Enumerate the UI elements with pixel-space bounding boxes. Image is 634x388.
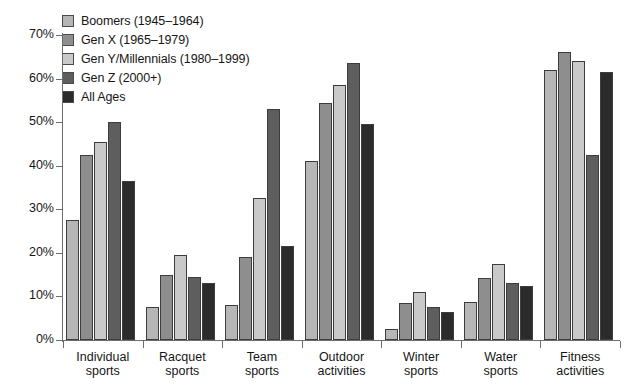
bar-group (222, 35, 302, 340)
bar-group (63, 35, 143, 340)
bar[interactable] (253, 198, 266, 340)
plot-area (63, 35, 620, 340)
x-axis-category-label-line: Fitness (540, 350, 620, 364)
bar[interactable] (492, 264, 505, 340)
bar[interactable] (572, 61, 585, 340)
bar-group-bars (385, 35, 454, 340)
legend-swatch-icon (62, 15, 74, 27)
x-axis-category-label-line: Individual (63, 350, 143, 364)
x-axis-category-label: Outdooractivities (302, 350, 382, 378)
x-axis-category-label-line: sports (63, 364, 143, 378)
bar-group (461, 35, 541, 340)
x-axis-category-labels: IndividualsportsRacquetsportsTeamsportsO… (0, 350, 634, 388)
bar[interactable] (441, 312, 454, 340)
x-axis-category-label-line: Racquet (143, 350, 223, 364)
bar[interactable] (305, 161, 318, 340)
x-axis-tick (302, 341, 303, 348)
x-axis-category-label: Fitnessactivities (540, 350, 620, 378)
bar[interactable] (225, 305, 238, 340)
y-axis-tick-label: 30% (12, 202, 54, 215)
x-axis-category-label-line: sports (222, 364, 302, 378)
bar[interactable] (202, 283, 215, 340)
bar[interactable] (385, 329, 398, 340)
bar[interactable] (413, 292, 426, 340)
x-axis-category-label-line: sports (461, 364, 541, 378)
x-axis-tick (461, 341, 462, 348)
bar-group-bars (544, 35, 613, 340)
x-axis-category-label-line: activities (302, 364, 382, 378)
bar[interactable] (586, 155, 599, 340)
bar[interactable] (174, 255, 187, 340)
legend-item-label: Boomers (1945–1964) (81, 14, 203, 28)
x-axis-category-label-line: Outdoor (302, 350, 382, 364)
y-axis-tick-label: 10% (12, 289, 54, 302)
bar-group (302, 35, 382, 340)
x-axis-category-label-line: Team (222, 350, 302, 364)
bar[interactable] (399, 303, 412, 340)
x-axis-category-label-line: activities (540, 364, 620, 378)
x-axis-category-label-line: Winter (381, 350, 461, 364)
bar[interactable] (506, 283, 519, 340)
bar[interactable] (558, 52, 571, 340)
bar[interactable] (600, 72, 613, 340)
x-axis-category-ticks (0, 341, 634, 349)
x-axis-tick (620, 341, 621, 348)
x-axis-tick (540, 341, 541, 348)
bar[interactable] (544, 70, 557, 340)
bar-group-bars (305, 35, 374, 340)
bar[interactable] (108, 122, 121, 340)
bar[interactable] (361, 124, 374, 340)
bar[interactable] (478, 278, 491, 340)
y-axis-tick-label: 70% (12, 28, 54, 41)
bar-group-bars (464, 35, 533, 340)
bar-group-bars (66, 35, 135, 340)
bar-group (381, 35, 461, 340)
y-axis-tick-label: 60% (12, 72, 54, 85)
bar[interactable] (520, 286, 533, 340)
x-axis-category-label: Racquetsports (143, 350, 223, 378)
bar-group-bars (146, 35, 215, 340)
bar-chart: Boomers (1945–1964)Gen X (1965–1979)Gen … (0, 0, 634, 388)
bar[interactable] (333, 85, 346, 340)
x-axis-tick (381, 341, 382, 348)
bar[interactable] (347, 63, 360, 340)
y-axis-tick-label: 20% (12, 246, 54, 259)
bar-group-bars (225, 35, 294, 340)
bar[interactable] (427, 307, 440, 340)
bar[interactable] (281, 246, 294, 340)
x-axis-category-label-line: sports (143, 364, 223, 378)
bar[interactable] (267, 109, 280, 340)
bar[interactable] (80, 155, 93, 340)
bar-group (143, 35, 223, 340)
y-axis-tick-label: 50% (12, 115, 54, 128)
bar-group (540, 35, 620, 340)
x-axis-category-label-line: Water (461, 350, 541, 364)
x-axis-tick (143, 341, 144, 348)
x-axis-category-label: Teamsports (222, 350, 302, 378)
y-axis-tick-label: 40% (12, 159, 54, 172)
x-axis-category-label: Individualsports (63, 350, 143, 378)
x-axis-category-label: Watersports (461, 350, 541, 378)
x-axis-category-label: Wintersports (381, 350, 461, 378)
x-axis-category-label-line: sports (381, 364, 461, 378)
bar[interactable] (94, 142, 107, 340)
bar[interactable] (464, 302, 477, 340)
bar[interactable] (239, 257, 252, 340)
bar[interactable] (122, 181, 135, 340)
bar[interactable] (160, 275, 173, 340)
x-axis-tick (222, 341, 223, 348)
bar[interactable] (319, 103, 332, 340)
bar[interactable] (188, 277, 201, 340)
bar[interactable] (66, 220, 79, 340)
x-axis-tick (63, 341, 64, 348)
legend-item[interactable]: Boomers (1945–1964) (62, 12, 250, 30)
bar[interactable] (146, 307, 159, 340)
